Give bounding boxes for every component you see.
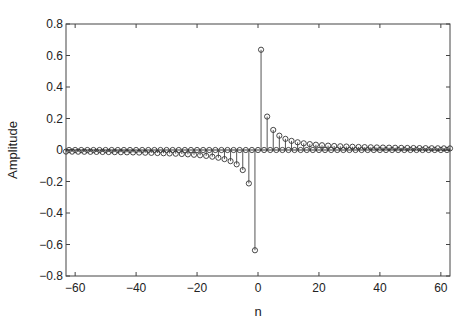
y-tick-label: −0.6 [39, 238, 63, 252]
stem-plot-figure: 0.80.60.40.20−0.2−0.4−0.6−0.8 −60−40−200… [0, 0, 470, 323]
y-tick-label: 0.2 [46, 112, 63, 126]
y-axis-label: Amplitude [5, 121, 20, 179]
x-tick-label: −60 [65, 281, 86, 295]
y-tick-label: 0.4 [46, 80, 63, 94]
y-tick-label: −0.2 [39, 175, 63, 189]
y-tick-label: 0.8 [46, 17, 63, 31]
y-tick-label: 0.6 [46, 49, 63, 63]
plot-area: 0.80.60.40.20−0.2−0.4−0.6−0.8 −60−40−200… [39, 17, 452, 295]
y-tick-label: −0.4 [39, 206, 63, 220]
x-tick-label: −20 [187, 281, 208, 295]
x-tick-label: 20 [312, 281, 326, 295]
x-tick-label: 40 [373, 281, 387, 295]
x-axis-label: n [254, 304, 261, 319]
x-tick-label: 60 [434, 281, 448, 295]
x-tick-label: −40 [126, 281, 147, 295]
y-tick-label: −0.8 [39, 269, 63, 283]
x-tick-label: 0 [255, 281, 262, 295]
y-tick-label: 0 [56, 143, 63, 157]
